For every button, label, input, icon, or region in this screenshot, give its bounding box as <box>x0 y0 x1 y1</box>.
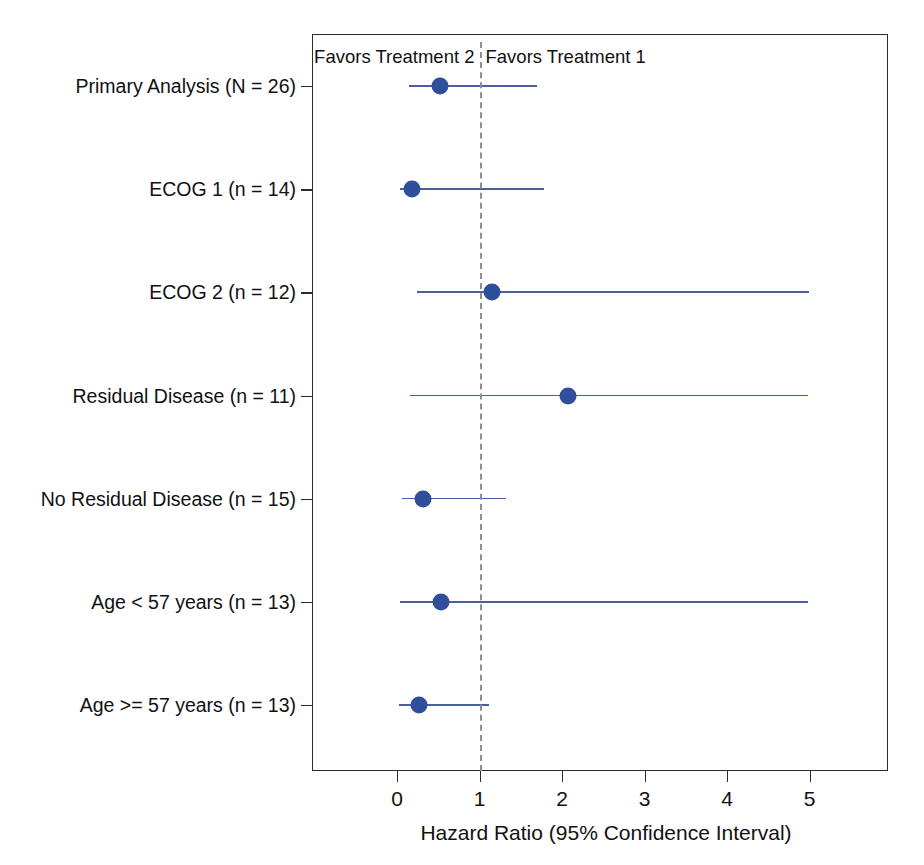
forest-row[interactable] <box>312 73 888 99</box>
reference-line-hr-1 <box>480 42 482 771</box>
x-axis-tick <box>562 771 563 782</box>
confidence-interval-line[interactable] <box>417 291 810 293</box>
y-axis-category-label: Age < 57 years (n = 13) <box>91 590 296 613</box>
forest-row[interactable] <box>312 486 888 512</box>
x-axis-tick <box>810 771 811 782</box>
y-axis-tick <box>301 705 312 706</box>
hazard-ratio-point[interactable] <box>411 697 428 714</box>
y-axis-tick <box>301 602 312 603</box>
confidence-interval-line[interactable] <box>400 601 808 603</box>
hazard-ratio-point[interactable] <box>559 387 576 404</box>
hazard-ratio-point[interactable] <box>483 284 500 301</box>
y-axis-tick <box>301 396 312 397</box>
annotation-favors-treatment-1: Favors Treatment 1 <box>486 46 646 68</box>
y-axis-category-label: Age >= 57 years (n = 13) <box>80 694 296 717</box>
hazard-ratio-point[interactable] <box>403 181 420 198</box>
x-axis-tick-label: 5 <box>804 787 816 811</box>
y-axis-category-label: Residual Disease (n = 11) <box>73 384 296 407</box>
forest-plot: 012345Primary Analysis (N = 26)ECOG 1 (n… <box>0 0 924 865</box>
x-axis-tick-label: 2 <box>556 787 568 811</box>
y-axis-tick <box>301 86 312 87</box>
hazard-ratio-point[interactable] <box>432 593 449 610</box>
confidence-interval-line[interactable] <box>410 395 808 397</box>
x-axis-tick-label: 0 <box>391 787 403 811</box>
x-axis-tick-label: 4 <box>721 787 733 811</box>
x-axis-tick <box>397 771 398 782</box>
hazard-ratio-point[interactable] <box>431 78 448 95</box>
x-axis-tick-label: 3 <box>639 787 651 811</box>
y-axis-category-label: ECOG 2 (n = 12) <box>149 281 296 304</box>
annotation-favors-treatment-2: Favors Treatment 2 <box>314 46 474 68</box>
x-axis-tick <box>645 771 646 782</box>
y-axis-tick <box>301 292 312 293</box>
x-axis-tick-label: 1 <box>474 787 486 811</box>
y-axis-category-label: Primary Analysis (N = 26) <box>75 75 296 98</box>
hazard-ratio-point[interactable] <box>414 490 431 507</box>
y-axis-category-label: No Residual Disease (n = 15) <box>41 487 296 510</box>
confidence-interval-line[interactable] <box>409 85 537 87</box>
y-axis-tick <box>301 189 312 190</box>
x-axis-title: Hazard Ratio (95% Confidence Interval) <box>420 821 791 845</box>
x-axis-tick <box>480 771 481 782</box>
forest-row[interactable] <box>312 176 888 202</box>
y-axis-category-label: ECOG 1 (n = 14) <box>149 178 296 201</box>
y-axis-tick <box>301 499 312 500</box>
confidence-interval-line[interactable] <box>400 188 544 190</box>
x-axis-tick <box>727 771 728 782</box>
